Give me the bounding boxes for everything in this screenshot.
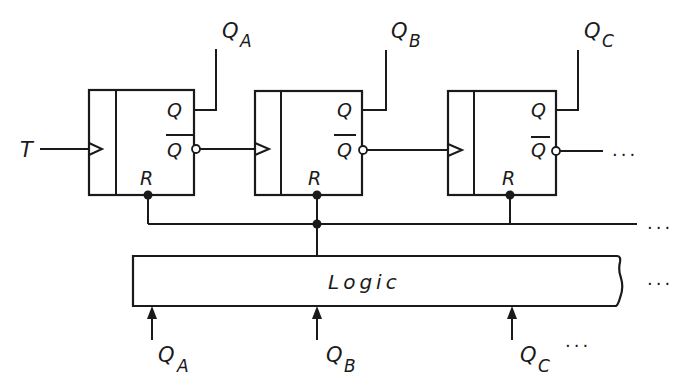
input-label-t: T bbox=[20, 138, 35, 162]
flipflop-a-output-label: Q bbox=[222, 19, 239, 43]
flipflop-a-output-sub: A bbox=[239, 31, 252, 51]
inversion-bubble-icon bbox=[552, 147, 560, 155]
logic-input-a-sub: A bbox=[176, 356, 189, 376]
arrow-up-icon bbox=[507, 306, 517, 319]
inversion-bubble-icon bbox=[192, 145, 200, 153]
flipflop-a-reset-pin: R bbox=[140, 167, 153, 189]
continuation-dots-inputs: ... bbox=[565, 330, 591, 351]
flipflop-b-q-pin: Q bbox=[337, 99, 352, 121]
logic-input-a: Q A bbox=[147, 306, 189, 376]
continuation-dots-logic: ... bbox=[647, 268, 673, 289]
flipflop-a-q-pin: Q bbox=[167, 99, 182, 121]
junction-dot-icon bbox=[313, 220, 322, 229]
arrow-up-icon bbox=[312, 306, 322, 319]
flipflop-b-qbar-pin: Q bbox=[337, 139, 352, 161]
flipflop-c-output-sub: C bbox=[602, 31, 614, 51]
flipflop-c-q-output-wire bbox=[556, 50, 578, 110]
flipflop-a-qbar-pin: Q bbox=[167, 139, 182, 161]
flipflop-c-q-pin: Q bbox=[531, 99, 546, 121]
logic-input-c: Q C bbox=[507, 306, 550, 376]
flipflop-c-output-label: Q bbox=[584, 19, 601, 43]
flipflop-a-q-output-wire bbox=[194, 49, 216, 110]
continuation-dots-bus: ... bbox=[647, 212, 673, 233]
flipflop-b-reset-pin: R bbox=[308, 167, 321, 189]
logic-block-label: Logic bbox=[328, 270, 401, 294]
flipflop-b-output-label: Q bbox=[391, 19, 408, 43]
logic-input-b-label: Q bbox=[326, 343, 343, 367]
flipflop-c-qbar-pin: Q bbox=[531, 139, 546, 161]
flipflop-b: Q Q R Q B bbox=[255, 19, 421, 200]
logic-input-c-label: Q bbox=[520, 343, 537, 367]
logic-input-b-sub: B bbox=[344, 356, 356, 376]
flipflop-a: Q Q R Q A bbox=[89, 19, 252, 200]
logic-input-c-sub: C bbox=[538, 356, 550, 376]
continuation-dots-qbar: ... bbox=[612, 139, 638, 160]
counter-diagram: T Q Q R Q A Q Q R Q B Q bbox=[0, 0, 697, 392]
logic-input-b: Q B bbox=[312, 306, 356, 376]
logic-input-a-label: Q bbox=[158, 343, 175, 367]
inversion-bubble-icon bbox=[359, 146, 367, 154]
flipflop-c-reset-pin: R bbox=[502, 167, 515, 189]
flipflop-b-q-output-wire bbox=[362, 50, 386, 110]
arrow-up-icon bbox=[147, 306, 157, 319]
flipflop-b-output-sub: B bbox=[409, 31, 421, 51]
flipflop-c: Q Q R Q C bbox=[448, 19, 614, 200]
